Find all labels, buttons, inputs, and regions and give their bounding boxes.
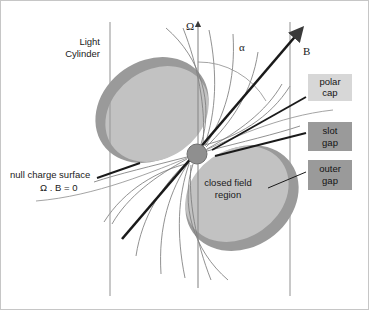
- closed-field-region-label-line1: closed field: [204, 177, 252, 188]
- callout-boxes: polar cap slot gap outer gap: [308, 74, 352, 190]
- closed-field-region-label-line2: region: [215, 189, 241, 200]
- outer-gap-label-line2: gap: [322, 175, 338, 186]
- polar-cap-label-line2: cap: [322, 87, 337, 98]
- diagram-canvas: polar cap slot gap outer gap Light Cylin…: [0, 0, 369, 310]
- light-cylinder-label-line2: Cylinder: [65, 48, 100, 59]
- null-charge-surface-label-line1: null charge surface: [10, 169, 90, 180]
- outer-gap-label-line1: outer: [319, 163, 341, 174]
- slot-gap-label-line1: slot: [323, 125, 338, 136]
- pulsar-magnetosphere-figure: polar cap slot gap outer gap Light Cylin…: [0, 0, 369, 310]
- alpha-angle-label: α: [239, 41, 245, 53]
- light-cylinder-label-line1: Light: [79, 36, 100, 47]
- omega-axis-label: Ω: [186, 20, 194, 32]
- neutron-star: [187, 144, 207, 164]
- polar-cap-label-line1: polar: [319, 76, 340, 87]
- null-charge-surface-label-line2: Ω . B = 0: [40, 182, 77, 193]
- magnetic-axis-label: B: [303, 45, 310, 57]
- figure-border: [1, 1, 369, 310]
- slot-gap-label-line2: gap: [322, 137, 338, 148]
